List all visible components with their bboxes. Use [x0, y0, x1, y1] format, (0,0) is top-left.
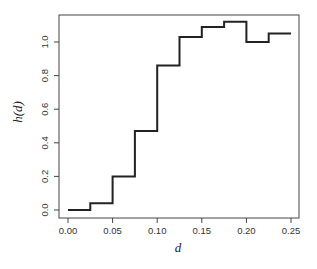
y-tick-label: 0.8 [39, 69, 50, 82]
x-tick-label: 0.05 [103, 225, 122, 236]
y-axis: 0.00.20.40.60.81.0 [39, 35, 59, 216]
x-axis-label: d [175, 240, 182, 255]
step-chart: 0.00.20.40.60.81.0 0.000.050.100.150.200… [0, 0, 317, 269]
y-tick-label: 0.0 [39, 203, 50, 216]
x-tick-label: 0.25 [282, 225, 301, 236]
step-line [68, 22, 291, 210]
y-tick-label: 0.4 [39, 136, 50, 149]
x-axis: 0.000.050.100.150.200.25 [59, 218, 301, 236]
x-tick-label: 0.10 [148, 225, 167, 236]
y-axis-label: h(d) [10, 101, 25, 123]
x-tick-label: 0.20 [237, 225, 256, 236]
y-tick-label: 0.2 [39, 170, 50, 183]
x-tick-label: 0.00 [59, 225, 78, 236]
y-tick-label: 0.6 [39, 103, 50, 116]
x-tick-label: 0.15 [193, 225, 212, 236]
y-tick-label: 1.0 [39, 35, 50, 48]
